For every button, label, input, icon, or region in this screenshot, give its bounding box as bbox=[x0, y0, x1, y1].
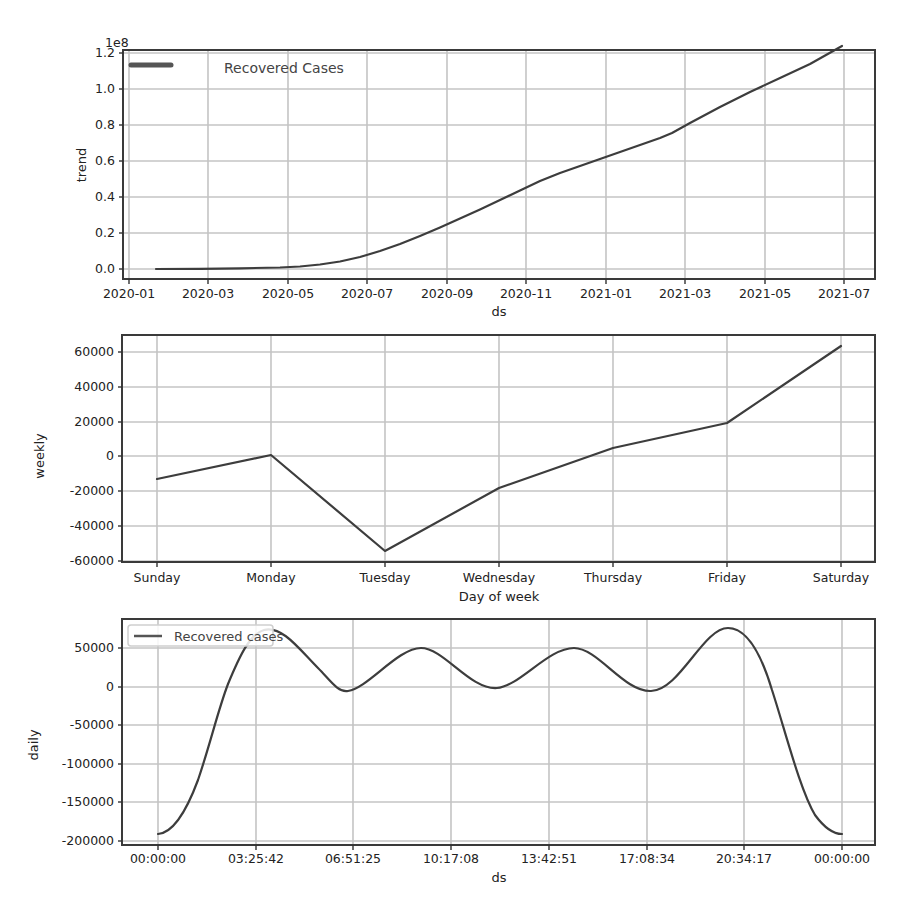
xtick-label: 00:00:00 bbox=[130, 851, 186, 866]
xtick-label: 03:25:42 bbox=[228, 851, 284, 866]
daily-legend: Recovered cases bbox=[128, 625, 284, 646]
ytick-label: 0.2 bbox=[95, 225, 115, 240]
xtick-label: 17:08:34 bbox=[619, 851, 675, 866]
xtick-label: 2020-07 bbox=[341, 286, 393, 301]
daily-axes-frame bbox=[122, 619, 875, 845]
daily-panel: Recovered cases 50000 0 -50000 -100000 -… bbox=[26, 619, 875, 885]
xtick-label: Sunday bbox=[134, 570, 181, 585]
ytick-label: -150000 bbox=[62, 794, 114, 809]
ytick-label: 0.0 bbox=[95, 261, 115, 276]
daily-legend-label: Recovered cases bbox=[174, 629, 284, 644]
trend-panel: Recovered Cases 1e8 1.2 1.0 0.8 0.6 0.4 … bbox=[74, 35, 875, 319]
trend-x-axis: 2020-01 2020-03 2020-05 2020-07 2020-09 … bbox=[103, 279, 870, 319]
xtick-label: 10:17:08 bbox=[423, 851, 479, 866]
ytick-label: 60000 bbox=[74, 344, 114, 359]
ytick-label: -100000 bbox=[62, 756, 114, 771]
ytick-label: 0 bbox=[106, 679, 114, 694]
trend-legend-label: Recovered Cases bbox=[224, 60, 344, 76]
ytick-label: -40000 bbox=[70, 518, 114, 533]
xtick-label: 2021-03 bbox=[659, 286, 711, 301]
weekly-x-axis: Sunday Monday Tuesday Wednesday Thursday… bbox=[134, 562, 870, 604]
trend-legend: Recovered Cases bbox=[131, 60, 344, 76]
weekly-ylabel: weekly bbox=[32, 433, 47, 479]
xtick-label: 2020-11 bbox=[500, 286, 552, 301]
xtick-label: 2021-01 bbox=[580, 286, 632, 301]
trend-ylabel: trend bbox=[74, 148, 89, 183]
ytick-label: -60000 bbox=[70, 553, 114, 568]
xtick-label: 06:51:25 bbox=[325, 851, 381, 866]
xtick-label: Friday bbox=[708, 570, 746, 585]
daily-x-axis: 00:00:00 03:25:42 06:51:25 10:17:08 13:4… bbox=[130, 845, 870, 885]
weekly-xlabel: Day of week bbox=[459, 589, 540, 604]
daily-gridlines bbox=[123, 620, 874, 844]
ytick-label: -200000 bbox=[62, 833, 114, 848]
ytick-label: 0.6 bbox=[95, 153, 115, 168]
xtick-label: Thursday bbox=[583, 570, 643, 585]
ytick-label: 20000 bbox=[74, 414, 114, 429]
xtick-label: 2020-09 bbox=[421, 286, 473, 301]
ytick-label: 50000 bbox=[74, 640, 114, 655]
trend-line bbox=[156, 46, 842, 269]
xtick-label: 2020-03 bbox=[182, 286, 234, 301]
trend-xlabel: ds bbox=[491, 304, 506, 319]
daily-ylabel: daily bbox=[26, 729, 41, 760]
ytick-label: 1.0 bbox=[95, 81, 115, 96]
xtick-label: 2021-07 bbox=[818, 286, 870, 301]
daily-xlabel: ds bbox=[491, 870, 506, 885]
xtick-label: Tuesday bbox=[359, 570, 411, 585]
trend-gridlines bbox=[124, 51, 874, 278]
weekly-y-axis: 60000 40000 20000 0 -20000 -40000 -60000… bbox=[32, 344, 122, 568]
ytick-label: 0.8 bbox=[95, 117, 115, 132]
daily-y-axis: 50000 0 -50000 -100000 -150000 -200000 d… bbox=[26, 640, 122, 848]
daily-line bbox=[158, 628, 842, 834]
ytick-label: 0 bbox=[106, 448, 114, 463]
ytick-label: 1.2 bbox=[95, 45, 115, 60]
weekly-panel: 60000 40000 20000 0 -20000 -40000 -60000… bbox=[32, 335, 875, 604]
xtick-label: 2021-05 bbox=[739, 286, 791, 301]
xtick-label: 13:42:51 bbox=[521, 851, 577, 866]
trend-axes-frame bbox=[123, 50, 875, 279]
xtick-label: 00:00:00 bbox=[814, 851, 870, 866]
xtick-label: 2020-01 bbox=[103, 286, 155, 301]
ytick-label: 40000 bbox=[74, 379, 114, 394]
trend-y-axis: 1e8 1.2 1.0 0.8 0.6 0.4 0.2 0.0 trend bbox=[74, 35, 129, 276]
xtick-label: Saturday bbox=[813, 570, 870, 585]
weekly-gridlines bbox=[123, 336, 874, 561]
ytick-label: -20000 bbox=[70, 483, 114, 498]
figure: Recovered Cases 1e8 1.2 1.0 0.8 0.6 0.4 … bbox=[0, 0, 901, 919]
xtick-label: Wednesday bbox=[463, 570, 536, 585]
ytick-label: -50000 bbox=[70, 717, 114, 732]
ytick-label: 0.4 bbox=[95, 189, 115, 204]
xtick-label: 20:34:17 bbox=[716, 851, 772, 866]
xtick-label: Monday bbox=[246, 570, 296, 585]
xtick-label: 2020-05 bbox=[262, 286, 314, 301]
